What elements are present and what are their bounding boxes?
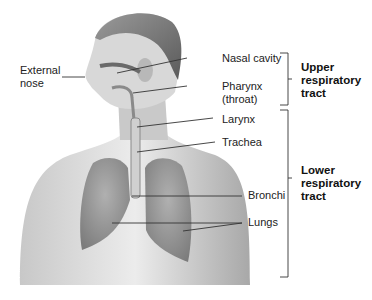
upper-bracket [280, 53, 292, 105]
label-bronchi: Bronchi [248, 189, 285, 202]
trachea-shape [131, 118, 140, 198]
respiratory-illustration [0, 0, 372, 300]
label-larynx: Larynx [222, 113, 255, 126]
group-lower-respiratory-tract: Lower respiratory tract [301, 164, 361, 203]
label-line: Pharynx [222, 80, 262, 93]
group-line: respiratory [301, 177, 361, 190]
group-line: Lower [301, 164, 361, 177]
label-line: (throat) [222, 93, 262, 106]
group-upper-respiratory-tract: Upper respiratory tract [301, 61, 361, 100]
label-trachea: Trachea [222, 136, 262, 149]
group-line: tract [301, 190, 361, 203]
label-line: External [20, 64, 60, 77]
label-line: nose [20, 77, 60, 90]
label-pharynx: Pharynx (throat) [222, 80, 262, 106]
label-lungs: Lungs [248, 216, 278, 229]
group-line: respiratory [301, 74, 361, 87]
label-nasal-cavity: Nasal cavity [222, 52, 281, 65]
group-line: tract [301, 87, 361, 100]
label-external-nose: External nose [20, 64, 60, 90]
group-line: Upper [301, 61, 361, 74]
